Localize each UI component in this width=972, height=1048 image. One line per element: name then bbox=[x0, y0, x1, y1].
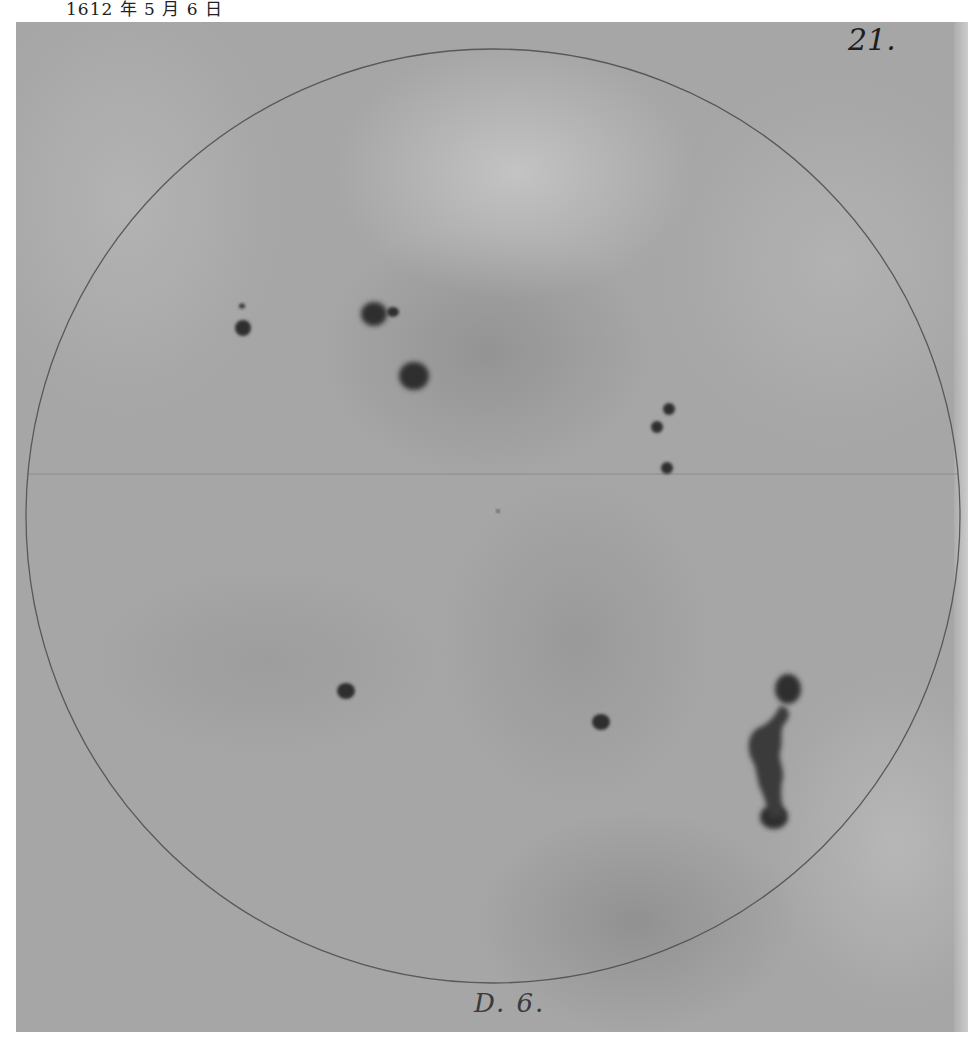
spot-upper-center-companion-sunspot bbox=[387, 307, 399, 317]
solar-disk-drawing bbox=[16, 22, 968, 1032]
sunspot-group-lower-right bbox=[749, 706, 789, 818]
spot-right-chain-3-sunspot bbox=[661, 462, 673, 474]
spot-small-upper-left-sunspot bbox=[239, 304, 245, 309]
page-number: 21. bbox=[848, 22, 896, 57]
spot-upper-center-main-sunspot bbox=[361, 302, 387, 326]
spot-center-dot-sunspot bbox=[497, 510, 500, 513]
spot-right-chain-2-sunspot bbox=[651, 421, 663, 433]
spot-upper-left-sunspot bbox=[235, 320, 251, 336]
spot-group-lower-right-top-sunspot bbox=[775, 674, 801, 704]
spot-right-chain-1-sunspot bbox=[663, 403, 675, 415]
handwritten-date-note: D. 6. bbox=[474, 988, 545, 1018]
solar-disk-outline bbox=[26, 49, 960, 983]
image-caption-date: 1612 年 5 月 6 日 bbox=[66, 0, 223, 20]
sunspots-group bbox=[235, 302, 801, 829]
spot-upper-center-lower-sunspot bbox=[399, 362, 429, 390]
spot-lower-left-sunspot bbox=[337, 683, 355, 699]
sunspot-drawing-plate: 21. D. 6. bbox=[16, 22, 968, 1032]
spot-lower-center-sunspot bbox=[592, 714, 610, 730]
